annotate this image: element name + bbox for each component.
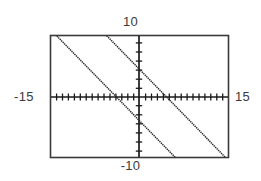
x-min-label: -15 — [14, 89, 34, 104]
y-min-label: -10 — [0, 158, 261, 173]
plot-viewport: 10 -10 -15 15 — [0, 0, 261, 181]
y-max-label: 10 — [0, 14, 261, 29]
x-max-label: 15 — [235, 89, 250, 104]
